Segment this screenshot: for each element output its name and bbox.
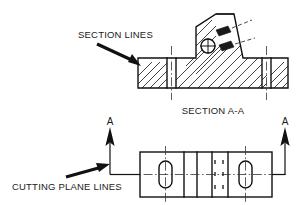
section-lines-label: SECTION LINES (78, 29, 153, 40)
cut-letter-left: A (107, 116, 114, 127)
cutting-plane-label-arrowhead (96, 163, 110, 172)
cutting-plane-label: CUTTING PLANE LINES (12, 181, 122, 192)
section-view-group (122, 14, 308, 100)
section-view-caption: SECTION A-A (182, 105, 245, 116)
cutting-plane-leader (66, 167, 102, 177)
section-lines-arrowhead (128, 54, 141, 66)
plan-view-group (128, 146, 286, 203)
hatch-center-body (160, 16, 302, 96)
engineering-drawing-canvas: SECTION LINES SECTION A-A (0, 0, 308, 205)
cut-letter-right: A (282, 116, 289, 127)
section-lines-annotation: SECTION LINES (78, 29, 153, 66)
cutting-plane-annotation: CUTTING PLANE LINES (12, 163, 122, 192)
drawing-svg: SECTION LINES SECTION A-A (0, 0, 308, 205)
detail-tag-upper (216, 20, 252, 36)
